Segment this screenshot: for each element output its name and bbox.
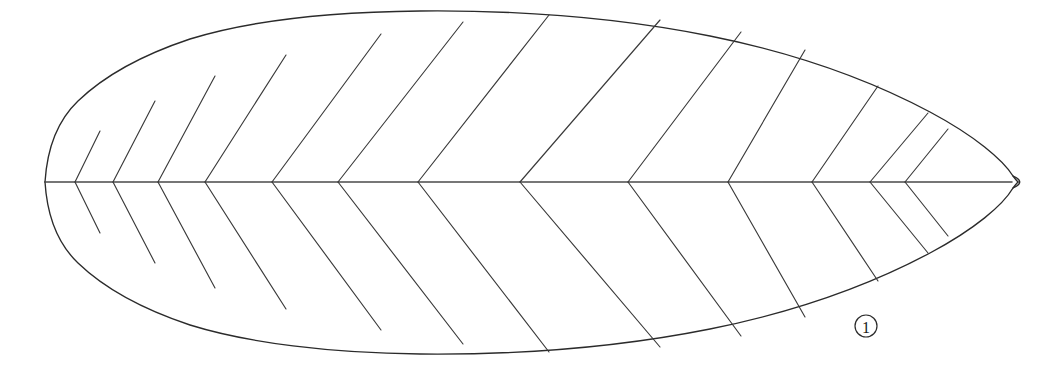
lateral-vein-lower-6 [338,182,463,344]
lateral-vein-upper-1 [75,131,100,182]
lateral-vein-upper-9 [628,32,741,182]
lateral-vein-lower-8 [520,182,660,347]
lateral-vein-lower-13 [905,182,948,236]
lateral-vein-lower-5 [272,182,381,330]
lateral-vein-upper-8 [520,20,660,182]
lateral-vein-upper-7 [418,15,549,182]
lateral-vein-upper-3 [158,76,215,182]
lateral-vein-lower-10 [728,182,805,317]
leaf-diagram-figure: 1 [0,0,1039,384]
lateral-vein-upper-11 [812,86,878,182]
lateral-vein-lower-2 [113,182,155,263]
lateral-vein-upper-5 [272,34,381,182]
callout-1-label: 1 [862,319,870,336]
lateral-vein-lower-3 [158,182,215,288]
leaf-diagram-svg: 1 [0,0,1039,384]
callouts-group: 1 [855,315,877,337]
lateral-vein-upper-6 [338,22,463,182]
lateral-vein-lower-12 [870,182,928,253]
lateral-vein-lower-11 [812,182,878,281]
lateral-vein-lower-9 [628,182,741,336]
lateral-vein-upper-10 [728,50,805,182]
lateral-vein-upper-4 [205,55,286,182]
lateral-vein-lower-7 [418,182,549,352]
lateral-vein-upper-2 [113,101,155,182]
lateral-vein-lower-1 [75,182,100,233]
lateral-vein-lower-4 [205,182,286,309]
lateral-vein-upper-12 [870,113,928,182]
lateral-vein-upper-13 [905,129,948,182]
